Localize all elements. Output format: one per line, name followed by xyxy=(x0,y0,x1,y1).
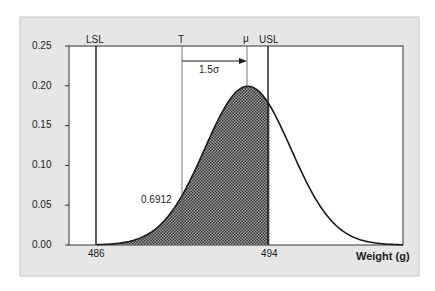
x-tick-label-486: 486 xyxy=(88,248,105,259)
y-tick-label: 0.20 xyxy=(32,80,51,91)
target-label: T xyxy=(178,34,184,45)
area-value-label: 0.6912 xyxy=(141,194,172,205)
x-axis-title: Weight (g) xyxy=(356,250,410,262)
mean-label: μ xyxy=(243,33,249,44)
lsl-label: LSL xyxy=(86,34,104,45)
shift-label: 1.5σ xyxy=(199,64,219,75)
y-tick-label: 0.15 xyxy=(32,119,51,130)
x-tick-label-494: 494 xyxy=(261,248,278,259)
y-tick-label: 0.00 xyxy=(32,239,51,250)
y-tick-label: 0.25 xyxy=(32,40,51,51)
usl-label: USL xyxy=(259,34,278,45)
normal-distribution-chart xyxy=(0,0,435,291)
y-tick-label: 0.10 xyxy=(32,159,51,170)
y-tick-label: 0.05 xyxy=(32,199,51,210)
